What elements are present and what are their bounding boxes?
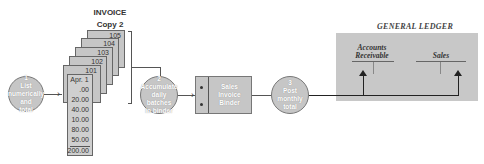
arrowhead-icon: › <box>57 90 60 99</box>
step-text: Post <box>283 87 297 95</box>
t-account-stem <box>440 62 441 74</box>
ledger-account-sales: Sales <box>416 52 466 60</box>
step-text: List <box>20 82 32 90</box>
tape-amount: 20.00 <box>71 96 89 103</box>
doc-number: 103 <box>97 49 109 56</box>
step-text: daily batches <box>141 91 177 107</box>
tape-amount: 10.00 <box>71 116 89 123</box>
binder-ring-icon <box>200 86 203 89</box>
invoice-title: INVOICE <box>85 8 135 17</box>
step-1-circle: 1 List numerically and total <box>8 76 44 112</box>
step-text: total <box>283 103 297 111</box>
posting-riser-ar <box>363 76 364 95</box>
posting-line <box>309 95 459 96</box>
bracket-to-step2 <box>131 67 161 68</box>
step-text: total <box>19 106 33 114</box>
arrowhead-up-icon <box>359 70 367 76</box>
doc-number: 101 <box>85 67 97 74</box>
account-title: Receivable <box>352 52 392 60</box>
t-account-top <box>416 61 466 62</box>
doc-number: 104 <box>103 40 115 47</box>
step-text: numerically <box>8 90 44 98</box>
binder-label: Sales Invoice Binder <box>208 77 251 113</box>
tape-amount: 50.00 <box>71 136 89 143</box>
step-number: 1 <box>24 74 28 82</box>
tape-total: 200.00 <box>68 147 89 154</box>
tape-amount: .00 <box>79 86 89 93</box>
arrowhead-up-icon <box>454 70 462 76</box>
step-text: and <box>20 98 32 106</box>
binder-text: Invoice <box>218 91 240 99</box>
step-2-circle: 2 Accumulate daily batches in binder <box>140 76 178 114</box>
ledger-title: GENERAL LEDGER <box>365 22 465 31</box>
connector-line <box>252 95 272 96</box>
adding-tape: Apr. 1 .00 20.00 40.00 10.00 80.00 50.00… <box>67 74 93 156</box>
binder-text: Sales <box>221 83 238 91</box>
step-text: in binder <box>145 107 172 115</box>
step-text: monthly <box>277 95 302 103</box>
step-number: 3 <box>288 79 292 87</box>
tape-amount: 80.00 <box>71 126 89 133</box>
account-title: Sales <box>416 52 466 60</box>
tape-amount: 40.00 <box>71 106 89 113</box>
step-number: 2 <box>157 75 161 83</box>
binder-text: Binder <box>219 99 240 107</box>
step-3-circle: 3 Post monthly total <box>271 76 309 114</box>
posting-riser-sales <box>458 76 459 96</box>
sales-invoice-binder: Sales Invoice Binder <box>195 76 252 114</box>
invoice-copy-label: Copy 2 <box>85 20 135 29</box>
step-text: Accumulate <box>141 83 178 91</box>
tape-date: Apr. 1 <box>70 76 89 83</box>
binder-ring-icon <box>200 103 203 106</box>
general-ledger-panel: Accounts Receivable Sales <box>336 33 478 101</box>
bracket-bottom <box>128 103 132 104</box>
ledger-account-accounts-receivable: Accounts Receivable <box>352 44 392 60</box>
t-account-stem <box>373 62 374 74</box>
doc-number: 102 <box>91 58 103 65</box>
arrowhead-icon: › <box>191 91 194 100</box>
